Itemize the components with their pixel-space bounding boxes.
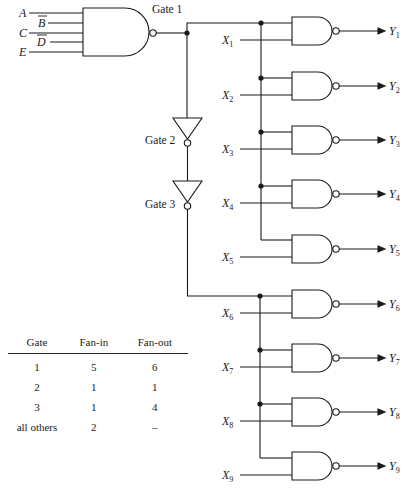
- gate2-label: Gate 2: [145, 134, 176, 146]
- x-input-labels: X1 X2 X3 X4 X5 X6 X7 X8 X9: [221, 33, 233, 484]
- nand-gate-y7: [292, 344, 385, 372]
- cell-fan-in: 1: [66, 374, 122, 394]
- svg-text:Y9: Y9: [389, 459, 400, 475]
- svg-text:X3: X3: [221, 142, 233, 158]
- cell-gate: all others: [8, 414, 66, 434]
- column-header-gate: Gate: [8, 336, 66, 354]
- table-row: 3 1 4: [8, 394, 188, 414]
- nand-gate-y9: [292, 452, 385, 480]
- svg-text:X2: X2: [221, 88, 233, 104]
- nand-gate-y4: [292, 180, 385, 208]
- gate1-nand-symbol: [83, 8, 149, 56]
- svg-text:Y6: Y6: [389, 297, 400, 313]
- nand-gate-y2: [292, 72, 385, 100]
- svg-text:Y2: Y2: [389, 79, 400, 95]
- cell-gate: 2: [8, 374, 66, 394]
- nand-gate-y8: [292, 398, 385, 426]
- svg-text:Y5: Y5: [389, 242, 400, 258]
- cell-fan-out: 4: [122, 394, 188, 414]
- y-output-labels: Y1 Y2 Y3 Y4 Y5 Y6 Y7 Y8 Y9: [389, 24, 400, 475]
- svg-text:Y7: Y7: [389, 351, 400, 367]
- table-row: all others 2 –: [8, 414, 188, 434]
- nand-gate-y6: [292, 290, 385, 318]
- input-label-c: C: [19, 26, 28, 40]
- cell-fan-out: –: [122, 414, 188, 434]
- cell-gate: 3: [8, 394, 66, 414]
- input-label-b-bar: B: [38, 16, 46, 30]
- svg-text:X9: X9: [221, 468, 233, 484]
- gate1-inversion-bubble: [150, 30, 156, 36]
- nand-gate-y1: [292, 17, 385, 45]
- input-label-e: E: [18, 45, 27, 59]
- svg-text:Y3: Y3: [389, 133, 400, 149]
- cell-fan-in: 5: [66, 354, 122, 375]
- svg-text:X8: X8: [221, 414, 233, 430]
- nand-gate-y5: [292, 235, 385, 263]
- table-row: 2 1 1: [8, 374, 188, 394]
- output-nand-gates: [292, 17, 385, 480]
- table-header-row: Gate Fan-in Fan-out: [8, 336, 188, 354]
- svg-text:X7: X7: [221, 360, 233, 376]
- svg-text:Y1: Y1: [389, 24, 400, 40]
- svg-text:Y4: Y4: [389, 187, 400, 203]
- input-label-d-bar: D: [36, 35, 46, 49]
- cell-fan-out: 6: [122, 354, 188, 375]
- fan-in-fan-out-table: Gate Fan-in Fan-out 1 5 6 2 1 1 3 1 4 al…: [8, 336, 188, 434]
- nand-gate-y3: [292, 126, 385, 154]
- svg-text:X1: X1: [221, 33, 233, 49]
- svg-text:X5: X5: [221, 250, 233, 266]
- gate3-inversion-bubble: [184, 203, 190, 209]
- gate3-inverter-symbol: [173, 181, 202, 202]
- svg-text:Y8: Y8: [389, 405, 400, 421]
- column-header-fan-out: Fan-out: [122, 336, 188, 354]
- gate2-inversion-bubble: [184, 140, 190, 146]
- cell-fan-in: 1: [66, 394, 122, 414]
- gate1-label: Gate 1: [152, 3, 183, 15]
- gate3-label: Gate 3: [145, 198, 176, 210]
- junction-dots: [184, 20, 263, 406]
- column-header-fan-in: Fan-in: [66, 336, 122, 354]
- cell-fan-out: 1: [122, 374, 188, 394]
- gate2-inverter-symbol: [173, 118, 202, 139]
- svg-text:X4: X4: [221, 196, 233, 212]
- cell-fan-in: 2: [66, 414, 122, 434]
- svg-text:X6: X6: [221, 306, 233, 322]
- input-label-a: A: [18, 6, 27, 20]
- table-row: 1 5 6: [8, 354, 188, 375]
- cell-gate: 1: [8, 354, 66, 375]
